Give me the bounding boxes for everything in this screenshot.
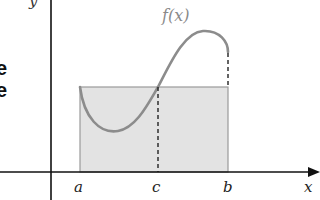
x-axis-arrow-icon [308,167,320,177]
tick-label-a: a [74,178,83,196]
truncated-text-line-1: e [0,58,7,78]
x-axis-label: x [304,178,312,196]
function-label: f(x) [162,6,189,25]
tick-label-c: c [152,178,160,196]
y-axis-label: y [29,0,37,10]
truncated-text-line-2: e [0,80,7,100]
mean-value-diagram [0,0,320,200]
tick-label-b: b [223,178,233,196]
